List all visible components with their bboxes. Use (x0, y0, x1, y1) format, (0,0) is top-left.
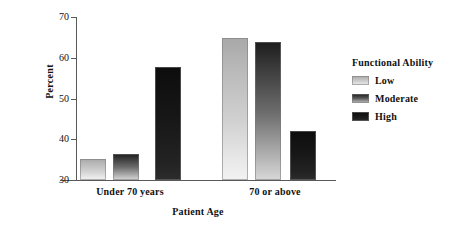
y-tick-label: 50 (45, 92, 69, 105)
tick-mark (71, 99, 76, 100)
bar-70above-low (222, 38, 248, 180)
legend-item-moderate: Moderate (352, 91, 464, 106)
x-axis-title: Patient Age (60, 206, 336, 217)
legend-label-low: Low (375, 75, 395, 86)
bar-under70-high (155, 67, 181, 180)
bar-under70-moderate (113, 154, 139, 180)
tick-mark (71, 139, 76, 140)
y-tick-label: 30 (45, 173, 69, 186)
x-axis-line (60, 180, 336, 181)
y-tick-label: 60 (45, 51, 69, 64)
legend-item-low: Low (352, 73, 464, 88)
y-axis-line (76, 17, 77, 181)
legend-title: Functional Ability (352, 57, 464, 68)
bar-70above-high (290, 131, 316, 180)
legend: Functional Ability Low Moderate High (352, 57, 464, 127)
bar-chart: Percent 70 60 50 40 30 Under 70 (0, 0, 467, 229)
plot-area: 70 60 50 40 30 (76, 17, 335, 180)
y-tick-label: 40 (45, 132, 69, 145)
tick-mark (71, 180, 76, 181)
legend-label-moderate: Moderate (375, 93, 418, 104)
legend-swatch-icon-high (352, 112, 369, 121)
tick-mark (71, 17, 76, 18)
x-category-label-under-70-years: Under 70 years (70, 186, 190, 197)
x-category-label-70-or-above: 70 or above (215, 186, 335, 197)
tick-mark (71, 58, 76, 59)
y-tick-label: 70 (45, 10, 69, 23)
legend-swatch-icon-moderate (352, 94, 369, 103)
legend-item-high: High (352, 109, 464, 124)
bar-70above-moderate (255, 42, 281, 180)
bar-under70-low (80, 159, 106, 180)
legend-swatch-icon-low (352, 76, 369, 85)
legend-label-high: High (375, 111, 397, 122)
